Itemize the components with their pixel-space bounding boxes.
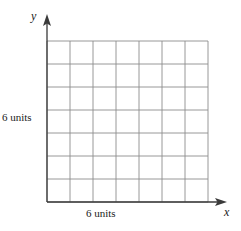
geometry-figure: y x 6 units 6 units bbox=[0, 0, 241, 231]
y-axis-label: y bbox=[31, 10, 36, 22]
x-axis bbox=[47, 198, 227, 206]
x-axis-label: x bbox=[224, 206, 229, 218]
vertical-side-length-label: 6 units bbox=[2, 112, 32, 123]
y-axis bbox=[43, 14, 51, 202]
grid-diagram-svg bbox=[0, 0, 241, 231]
horizontal-side-length-label: 6 units bbox=[86, 208, 116, 219]
grid-lines bbox=[47, 41, 208, 202]
